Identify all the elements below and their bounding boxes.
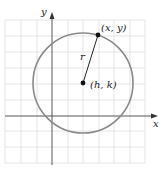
x-axis-label: x: [153, 118, 159, 129]
circle-point: [96, 33, 101, 38]
radius-label: r: [80, 51, 86, 62]
center-point: [81, 81, 86, 86]
y-axis-label: y: [40, 6, 47, 17]
radius-line: [83, 35, 98, 83]
y-axis-arrow-icon: [50, 12, 55, 19]
grid: [5, 20, 145, 163]
center-label: (h, k): [90, 79, 117, 90]
circle-point-label: (x, y): [101, 22, 127, 33]
circle-diagram: x y (x, y) (h, k) r: [0, 0, 163, 172]
